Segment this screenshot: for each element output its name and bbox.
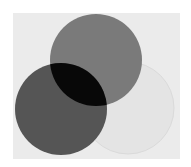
venn-diagram (0, 0, 191, 167)
